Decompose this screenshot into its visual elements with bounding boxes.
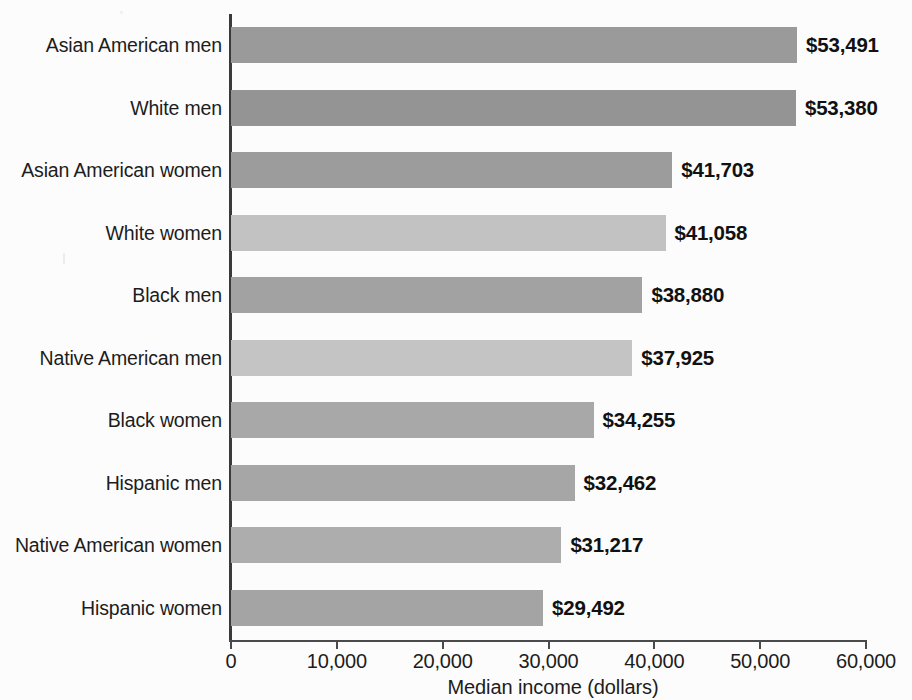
- bar: [231, 465, 575, 501]
- category-label: Asian American men: [46, 14, 222, 77]
- bar-value-label: $31,217: [570, 514, 643, 577]
- x-axis-tick: [653, 640, 655, 649]
- bar-value-label: $29,492: [552, 577, 625, 640]
- bar-row: Asian American women$41,703: [0, 139, 912, 202]
- bar: [231, 277, 642, 313]
- bar-value-label: $32,462: [584, 452, 657, 515]
- category-label: Asian American women: [21, 139, 222, 202]
- x-axis-tick: [336, 640, 338, 649]
- bar-row: Black women$34,255: [0, 389, 912, 452]
- category-label: Native American men: [40, 327, 222, 390]
- bar: [231, 590, 543, 626]
- bar: [231, 215, 666, 251]
- x-axis-tick: [865, 640, 867, 649]
- x-axis-tick-label: 60,000: [836, 650, 896, 673]
- bar-value-label: $41,058: [675, 202, 748, 265]
- bar-value-label: $41,703: [681, 139, 754, 202]
- bar: [231, 27, 797, 63]
- x-axis-tick: [548, 640, 550, 649]
- x-axis-title-text: Median income (dollars): [447, 676, 658, 699]
- category-label: Hispanic men: [106, 452, 222, 515]
- category-label: Hispanic women: [81, 577, 222, 640]
- x-axis-title: Median income (dollars): [0, 676, 912, 699]
- bar-row: Hispanic men$32,462: [0, 452, 912, 515]
- x-axis-tick: [442, 640, 444, 649]
- category-label: Black men: [132, 264, 222, 327]
- bar-value-label: $53,491: [806, 14, 879, 77]
- category-label: Black women: [108, 389, 222, 452]
- bar: [231, 152, 672, 188]
- bar-value-label: $37,925: [641, 327, 714, 390]
- median-income-bar-chart: Asian American men$53,491White men$53,38…: [0, 0, 912, 700]
- x-axis-tick-label: 10,000: [307, 650, 367, 673]
- bar: [231, 402, 594, 438]
- bar-value-label: $34,255: [603, 389, 676, 452]
- category-label: White women: [106, 202, 222, 265]
- x-axis-tick-label: 30,000: [519, 650, 579, 673]
- x-axis-tick: [230, 640, 232, 649]
- x-axis-tick-label: 40,000: [624, 650, 684, 673]
- bar: [231, 90, 796, 126]
- x-axis-tick-label: 0: [226, 650, 237, 673]
- bar-row: Native American women$31,217: [0, 514, 912, 577]
- bar: [231, 340, 632, 376]
- bar-row: Asian American men$53,491: [0, 14, 912, 77]
- bar: [231, 527, 561, 563]
- bar-value-label: $53,380: [805, 77, 878, 140]
- x-axis-tick-label: 20,000: [413, 650, 473, 673]
- category-label: White men: [130, 77, 222, 140]
- bar-row: Native American men$37,925: [0, 327, 912, 390]
- bar-row: Black men$38,880: [0, 264, 912, 327]
- x-axis-tick-label: 50,000: [730, 650, 790, 673]
- x-axis-tick: [759, 640, 761, 649]
- category-label: Native American women: [15, 514, 222, 577]
- bar-row: Hispanic women$29,492: [0, 577, 912, 640]
- bar-row: White men$53,380: [0, 77, 912, 140]
- bar-row: White women$41,058: [0, 202, 912, 265]
- bar-value-label: $38,880: [651, 264, 724, 327]
